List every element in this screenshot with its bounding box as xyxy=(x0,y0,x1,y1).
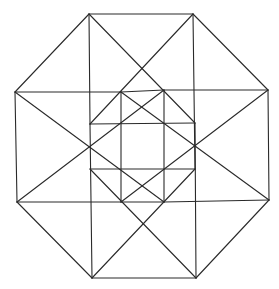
edge-R1-R2 xyxy=(268,90,269,200)
edge-L2-L1 xyxy=(15,92,17,202)
edge-L1-T1 xyxy=(15,14,89,92)
edge-T2-R1 xyxy=(193,14,268,90)
edge-B1-L2 xyxy=(17,202,92,278)
edge-R2-B2 xyxy=(196,200,269,278)
edge-H-C xyxy=(90,123,195,124)
edge-E-R2 xyxy=(164,200,269,202)
tesseract-diagram xyxy=(0,0,279,289)
diagram-canvas xyxy=(0,0,279,289)
edge-A-B xyxy=(121,90,164,92)
edge-T1-H xyxy=(89,14,90,124)
